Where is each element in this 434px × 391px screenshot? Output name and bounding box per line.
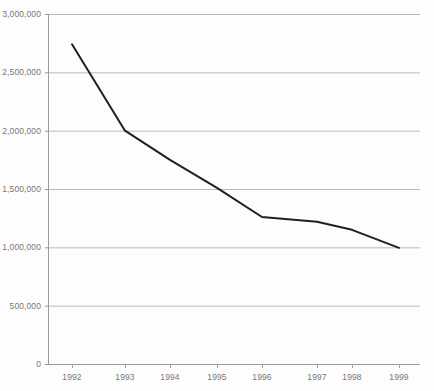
line-chart: 0500,0001,000,0001,500,0002,000,0002,500… (0, 0, 434, 391)
y-axis-tick-label: 1,000,000 (2, 243, 41, 252)
gridlines (48, 15, 420, 307)
y-axis-tick-label: 3,000,000 (2, 10, 41, 19)
chart-plot-area (0, 0, 434, 391)
x-axis-tick-label: 1996 (242, 373, 282, 382)
x-axis-ticks (73, 365, 400, 368)
y-axis-ticks (45, 15, 48, 365)
series-line (72, 44, 399, 248)
x-axis-tick-label: 1998 (332, 373, 372, 382)
data-series-line (72, 44, 399, 248)
x-axis-tick-label: 1995 (197, 373, 237, 382)
x-axis-tick-label: 1992 (52, 373, 92, 382)
x-axis-tick-label: 1994 (150, 373, 190, 382)
x-axis-tick-label: 1997 (297, 373, 337, 382)
y-axis-tick-label: 0 (36, 360, 41, 369)
y-axis-tick-label: 500,000 (10, 302, 41, 311)
x-axis-tick-label: 1993 (105, 373, 145, 382)
y-axis-tick-label: 2,000,000 (2, 127, 41, 136)
x-axis-tick-label: 1999 (379, 373, 419, 382)
y-axis-tick-label: 1,500,000 (2, 185, 41, 194)
y-axis-tick-label: 2,500,000 (2, 68, 41, 77)
